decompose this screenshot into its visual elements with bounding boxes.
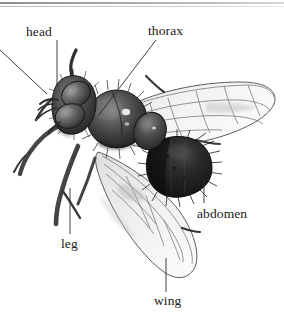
- label-wing: wing: [154, 294, 181, 308]
- label-head: head: [26, 25, 52, 39]
- label-thorax: thorax: [148, 24, 183, 38]
- figure-page: head thorax abdomen leg wing: [0, 0, 284, 321]
- fly-illustration: [0, 0, 284, 321]
- label-leg: leg: [61, 237, 78, 251]
- antenna-leader-line-offscreen: [0, 50, 47, 94]
- label-abdomen: abdomen: [197, 207, 247, 221]
